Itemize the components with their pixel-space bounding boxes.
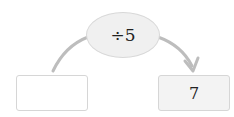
operation-oval: ÷5 xyxy=(86,12,160,58)
operation-label: ÷5 xyxy=(110,25,135,45)
output-box: 7 xyxy=(158,75,230,111)
output-value: 7 xyxy=(189,84,199,103)
input-box[interactable] xyxy=(16,75,88,111)
